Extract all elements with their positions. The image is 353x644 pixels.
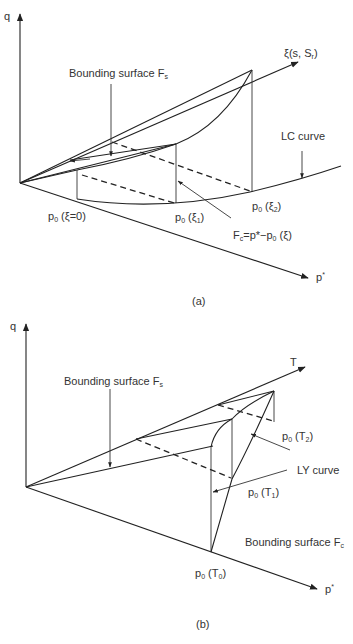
- panel-a: q ξ(s, Sr) Bounding surface Fs LC curve …: [4, 10, 341, 307]
- q-label-b: q: [10, 320, 16, 332]
- fs-low-ray-b: [26, 446, 213, 487]
- dash-t0-t1: [136, 439, 231, 478]
- p0-t1-label: p0 (T1): [248, 486, 279, 499]
- p-label-b: p*: [325, 583, 334, 595]
- xi1-to-xi2-curve: [176, 70, 252, 144]
- p0-xi1-label: p0 (ξ1): [175, 211, 204, 224]
- lc-curve: [77, 166, 341, 204]
- fc-equation-label: Fc=p*−p0 (ξ): [233, 229, 292, 242]
- ly-curve: [211, 391, 274, 552]
- caption-a: (a): [192, 295, 205, 307]
- t-axis-label: T: [290, 356, 297, 368]
- dash-xi1-xi2: [112, 142, 250, 191]
- fs-top-ray-a: [20, 70, 252, 183]
- bounding-fs-label-b: Bounding surface Fs: [64, 375, 163, 388]
- xi-axis-label: ξ(s, Sr): [284, 47, 318, 60]
- panel-b: q T Bounding surface Fs p0 (T2) LY curve…: [10, 320, 344, 630]
- fs-low-ray-a: [20, 170, 77, 183]
- p0-xi0-label: p0 (ξ=0): [48, 210, 86, 223]
- q-label-a: q: [4, 10, 10, 22]
- lc-curve-label: LC curve: [281, 130, 325, 142]
- dash-xi0-xi1: [82, 175, 174, 203]
- t1-top-edge: [136, 419, 232, 439]
- p0-t2-label: p0 (T2): [282, 430, 313, 443]
- caption-b: (b): [196, 618, 209, 630]
- bounding-fs-label-a: Bounding surface Fs: [69, 67, 168, 80]
- p-label-a: p*: [316, 271, 325, 283]
- xi-axis-a: [20, 62, 298, 183]
- p0-xi2-label: p0 (ξ2): [252, 200, 281, 213]
- t2-top-edge: [218, 391, 274, 405]
- diagram-canvas: q ξ(s, Sr) Bounding surface Fs LC curve …: [0, 0, 353, 644]
- bounding-fc-label: Bounding surface Fc: [245, 536, 344, 549]
- p0-t0-label: p0 (T0): [195, 567, 226, 580]
- ly-curve-label: LY curve: [297, 464, 339, 476]
